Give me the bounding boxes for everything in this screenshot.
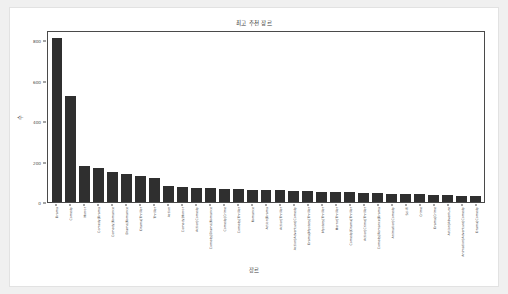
bar-slot [78, 32, 92, 202]
x-axis-tick-mark [364, 204, 365, 206]
bar[interactable] [288, 191, 299, 202]
x-axis-tick-label: Comedy|Romance|Drama [378, 207, 381, 249]
bar-slot [106, 32, 120, 202]
bar-slot [357, 32, 371, 202]
bar[interactable] [107, 172, 118, 202]
x-axis-tick-slot: Drama|Romance [119, 204, 133, 262]
bar[interactable] [135, 176, 146, 202]
bar[interactable] [456, 196, 467, 202]
x-axis-tick-slot: Comedy|Drama [91, 204, 105, 262]
x-axis-tick-label: Comedy|Romance [112, 207, 115, 237]
x-axis-tick-slot: Animation|Comedy [385, 204, 399, 262]
x-axis-tick-label: Horror|Thriller [336, 207, 339, 230]
chart-title: 최고 추천 장르 [10, 19, 498, 27]
x-axis-tick-label: Comedy|Thriller [238, 207, 241, 233]
x-axis-tick-slot: Comedy|Thriller [231, 204, 245, 262]
x-axis-tick-label: Animation|Adventure|Comedy [462, 207, 465, 257]
bar-slot [162, 32, 176, 202]
bar[interactable] [442, 195, 453, 202]
x-axis-tick-label: Horror [84, 207, 87, 217]
x-axis-tick-label: Action|Drama [266, 207, 269, 230]
bar-slot [245, 32, 259, 202]
x-axis-tick-label: Drama|Romance [126, 207, 129, 235]
bar[interactable] [93, 168, 104, 202]
bar[interactable] [163, 186, 174, 202]
x-axis-tick-label: Mystery|Thriller [322, 207, 325, 233]
x-axis-tick-mark [168, 204, 169, 206]
y-axis-tick-mark [43, 81, 46, 82]
y-axis-tick-label: 800 [33, 39, 41, 44]
x-axis-tick-mark [378, 204, 379, 206]
bar[interactable] [191, 188, 202, 202]
x-axis-tick-label: Animation|Comedy [392, 207, 395, 239]
bar[interactable] [52, 38, 63, 202]
bar[interactable] [261, 190, 272, 202]
x-axis-tick-label: Comedy|Horror [182, 207, 185, 232]
bar[interactable] [219, 189, 230, 202]
bar-slot [301, 32, 315, 202]
x-axis-tick-label: Drama|Crime [434, 207, 437, 229]
bar[interactable] [316, 192, 327, 202]
bar-slot [412, 32, 426, 202]
x-axis-tick-slot: Horror [77, 204, 91, 262]
x-axis-tick-label: Romance [252, 207, 255, 222]
bar[interactable] [358, 193, 369, 202]
bar[interactable] [428, 195, 439, 202]
bar-slot [273, 32, 287, 202]
bar[interactable] [372, 193, 383, 202]
x-axis-tick-slot: Drama|Thriller [133, 204, 147, 262]
x-axis-title: 장르 [10, 266, 498, 274]
bar-slot [148, 32, 162, 202]
bar[interactable] [79, 166, 90, 202]
bar[interactable] [149, 178, 160, 202]
bar[interactable] [330, 192, 341, 202]
x-axis-tick-mark [98, 204, 99, 206]
x-axis-tick-slot: Horror|Thriller [329, 204, 343, 262]
bar[interactable] [470, 196, 481, 202]
bar-slot [203, 32, 217, 202]
x-axis-tick-mark [322, 204, 323, 206]
x-axis-tick-mark [280, 204, 281, 206]
bar[interactable] [275, 190, 286, 202]
bar[interactable] [65, 96, 76, 202]
bar-series [48, 32, 484, 202]
bar[interactable] [414, 194, 425, 202]
bar-slot [385, 32, 399, 202]
bar[interactable] [400, 194, 411, 202]
bar[interactable] [121, 174, 132, 202]
bar[interactable] [233, 189, 244, 202]
x-axis-tick-label: Crime [420, 207, 423, 217]
x-axis-tick-mark [462, 204, 463, 206]
bar[interactable] [177, 187, 188, 202]
bar[interactable] [302, 191, 313, 202]
bar[interactable] [205, 188, 216, 202]
figure-canvas: 최고 추천 장르 수 0200400600800 DramaComedyHorr… [9, 7, 499, 287]
x-axis-tick-slot: Drama|Crime [427, 204, 441, 262]
bar-slot [343, 32, 357, 202]
x-axis-tick-mark [252, 204, 253, 206]
y-axis-tick-mark [43, 203, 46, 204]
x-axis-tick-mark [308, 204, 309, 206]
bar[interactable] [247, 190, 258, 202]
x-axis-tick-mark [294, 204, 295, 206]
y-axis-tick-label: 200 [33, 160, 41, 165]
bar-slot [64, 32, 78, 202]
x-axis-tick-label: Drama|Mystery|Thriller [308, 207, 311, 245]
x-axis-tick-label: Comedy|Drama [98, 207, 101, 233]
bar-slot [440, 32, 454, 202]
x-axis-tick-slot: Mystery|Thriller [315, 204, 329, 262]
x-axis-tick-mark [224, 204, 225, 206]
x-axis-tick-labels: DramaComedyHorrorComedy|DramaComedy|Roma… [47, 204, 485, 262]
x-axis-tick-label: Comedy|Drama|Romance [210, 207, 213, 249]
bar-slot [329, 32, 343, 202]
bar[interactable] [344, 192, 355, 202]
x-axis-tick-slot: Drama|Comedy [469, 204, 483, 262]
x-axis-tick-slot: Animation|Adventure|Comedy [455, 204, 469, 262]
bar[interactable] [386, 194, 397, 202]
y-axis-tick-mark [43, 41, 46, 42]
x-axis-tick-mark [448, 204, 449, 206]
x-axis-tick-label: Drama [56, 207, 59, 218]
bar-slot [50, 32, 64, 202]
bar-slot [287, 32, 301, 202]
x-axis-tick-mark [266, 204, 267, 206]
